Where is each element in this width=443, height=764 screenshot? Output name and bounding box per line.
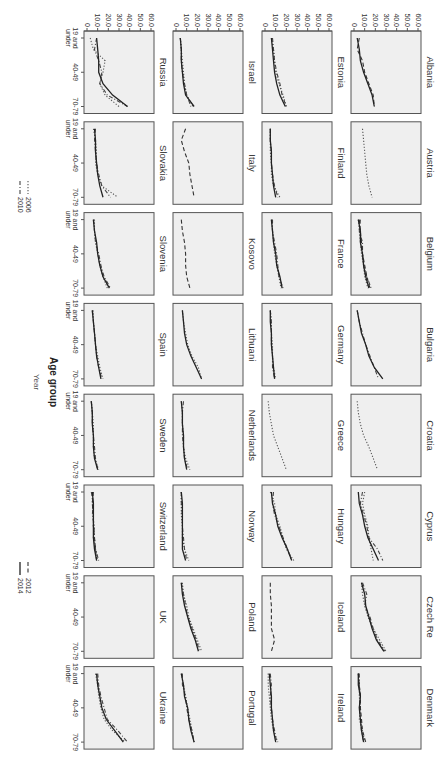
y-axis: 60.050.040.030.020.010.00 [351, 13, 422, 31]
y-tick-label: 0 [351, 23, 358, 27]
y-tick-label: 20.0 [105, 13, 112, 27]
panel-hungary: Hungary [262, 485, 347, 568]
panel-frame [262, 122, 332, 205]
panel-frame [84, 576, 154, 659]
x-axis: 19 andunder40-4970-79 [65, 118, 84, 206]
panel-frame [173, 667, 243, 750]
panel-title: Lithuani [247, 328, 258, 361]
panel-title: Norway [247, 510, 258, 542]
y-tick-label: 50.0 [315, 13, 322, 27]
panel-czech-re: Czech Re [351, 576, 436, 659]
x-tick-label: 19 and [72, 390, 79, 412]
panel-germany: Germany [262, 303, 347, 386]
panel-title: Ukraine [158, 691, 169, 724]
y-tick-label: 50.0 [404, 13, 411, 27]
y-tick-label: 50.0 [137, 13, 144, 27]
panel-slovenia: Slovenia19 andunder40-4970-79 [65, 209, 169, 297]
panel-frame [351, 303, 421, 386]
x-tick-label: 70-79 [72, 733, 79, 751]
x-tick-label: under [65, 29, 72, 48]
panel-ireland: Ireland [262, 667, 347, 750]
small-multiples-chart: Albania60.050.040.030.020.010.00AustriaB… [0, 0, 443, 764]
panel-title: Slovenia [158, 236, 169, 273]
x-axis: 19 andunder40-4970-79 [65, 27, 84, 115]
panel-title: Belgium [425, 237, 436, 271]
x-axis: 19 andunder40-4970-79 [65, 300, 84, 388]
panel-estonia: Estonia60.050.040.030.020.010.00 [262, 13, 348, 113]
panel-title: Croatia [425, 420, 436, 451]
panel-title: Slovakia [158, 145, 169, 182]
panel-title: Israel [247, 61, 258, 84]
x-tick-label: under [65, 574, 72, 593]
x-tick-label: 40-49 [72, 608, 79, 626]
panel-frame [173, 31, 243, 114]
y-axis: 60.050.040.030.020.010.00 [173, 13, 244, 31]
panel-title: Austria [425, 148, 436, 178]
panel-title: Italy [247, 154, 258, 172]
panel-israel: Israel60.050.040.030.020.010.00 [173, 13, 259, 113]
panel-albania: Albania60.050.040.030.020.010.00 [351, 13, 437, 113]
panel-italy: Italy [173, 122, 258, 205]
panel-frame [351, 576, 421, 659]
panel-title: Poland [247, 602, 258, 632]
panel-title: Kosovo [247, 238, 258, 270]
panel-title: Albania [425, 56, 436, 88]
panel-portugal: Portugal [173, 667, 258, 750]
y-tick-label: 60.0 [326, 13, 333, 27]
panel-title: Russia [158, 58, 169, 88]
panel-title: Ireland [336, 693, 347, 722]
x-tick-label: 40-49 [72, 699, 79, 717]
panel-title: Czech Re [425, 596, 436, 638]
panel-norway: Norway [173, 485, 258, 568]
x-tick-label: 19 and [72, 300, 79, 322]
panel-finland: Finland [262, 122, 347, 205]
y-tick-label: 0 [173, 23, 180, 27]
rotated-chart-stage: Albania60.050.040.030.020.010.00AustriaB… [0, 0, 443, 764]
x-tick-label: 70-79 [72, 642, 79, 660]
panel-title: France [336, 239, 347, 269]
y-tick-label: 10.0 [361, 13, 368, 27]
panel-frame [262, 394, 332, 477]
panel-frame [84, 394, 154, 477]
panel-title: Greece [336, 420, 347, 451]
panel-title: Netherlands [247, 410, 258, 461]
y-tick-label: 0 [262, 23, 269, 27]
panel-netherlands: Netherlands [173, 394, 258, 477]
y-tick-label: 60.0 [237, 13, 244, 27]
panel-frame [262, 303, 332, 386]
panel-poland: Poland [173, 576, 258, 659]
panel-frame [351, 394, 421, 477]
x-tick-label: under [65, 301, 72, 320]
panel-denmark: Denmark [351, 667, 436, 750]
panel-iceland: Iceland [262, 576, 347, 659]
x-tick-label: 40-49 [72, 154, 79, 172]
y-tick-label: 60.0 [148, 13, 155, 27]
panel-title: Portugal [247, 690, 258, 725]
y-tick-label: 40.0 [215, 13, 222, 27]
panel-frame [351, 213, 421, 296]
x-axis: 19 andunder40-4970-79 [65, 390, 84, 478]
x-tick-label: 19 and [72, 27, 79, 49]
x-tick-label: 70-79 [72, 188, 79, 206]
panel-frame [173, 122, 243, 205]
y-tick-label: 20.0 [283, 13, 290, 27]
panel-sweden: Sweden19 andunder40-4970-79 [65, 390, 169, 478]
x-tick-label: under [65, 665, 72, 684]
panel-frame [351, 485, 421, 568]
panel-frame [173, 576, 243, 659]
y-tick-label: 40.0 [304, 13, 311, 27]
panel-frame [84, 485, 154, 568]
y-tick-label: 20.0 [372, 13, 379, 27]
legend-label-2010: 2010 [17, 197, 24, 213]
x-axis: 19 andunder40-4970-79 [65, 481, 84, 569]
x-tick-label: under [65, 392, 72, 411]
x-tick-label: 70-79 [72, 552, 79, 570]
panel-slovakia: Slovakia19 andunder40-4970-79 [65, 118, 169, 206]
x-axis: 19 andunder40-4970-79 [65, 209, 84, 297]
panel-title: Iceland [336, 602, 347, 633]
x-tick-label: 19 and [72, 663, 79, 685]
y-tick-label: 10.0 [272, 13, 279, 27]
y-tick-label: 20.0 [194, 13, 201, 27]
y-tick-label: 30.0 [205, 13, 212, 27]
panel-title: Hungary [336, 508, 347, 544]
